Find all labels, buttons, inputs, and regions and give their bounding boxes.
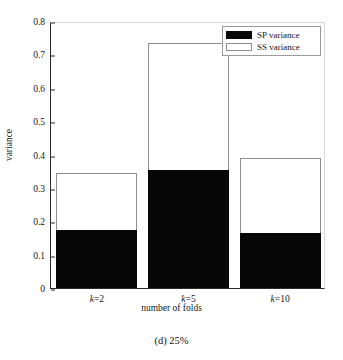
bar-segment-sp-variance xyxy=(240,233,321,288)
y-tick-mark xyxy=(51,23,55,24)
bar-segment-sp-variance xyxy=(148,170,229,288)
y-tick-label: 0.2 xyxy=(33,219,51,229)
figure-panel: variance 00.10.20.30.40.50.60.70.8 k=2k=… xyxy=(0,0,343,360)
bar-group xyxy=(56,173,137,288)
y-tick-label: 0.6 xyxy=(33,85,51,95)
y-tick-label: 0.4 xyxy=(33,152,51,162)
x-axis-label: number of folds xyxy=(0,303,343,313)
y-tick-label: 0.7 xyxy=(33,52,51,62)
y-tick-mark xyxy=(51,189,55,190)
y-tick-mark xyxy=(51,156,55,157)
y-tick-label: 0.5 xyxy=(33,118,51,128)
bar-segment-sp-variance xyxy=(56,230,137,288)
figure-caption: (d) 25% xyxy=(0,335,343,346)
bar-group xyxy=(148,43,229,288)
chart-legend: SP variance SS variance xyxy=(222,26,321,56)
plot-area: 00.10.20.30.40.50.60.70.8 k=2k=5k=10 xyxy=(50,22,325,289)
y-tick-mark xyxy=(51,256,55,257)
y-axis-label: variance xyxy=(4,105,14,185)
legend-swatch-ss-variance xyxy=(226,43,252,51)
legend-swatch-sp-variance xyxy=(226,31,252,39)
y-tick-label: 0.1 xyxy=(33,252,51,262)
y-tick-mark xyxy=(51,123,55,124)
legend-label-sp-variance: SP variance xyxy=(257,31,299,40)
bar-group xyxy=(240,158,321,288)
y-tick-mark xyxy=(51,290,55,291)
y-tick-mark xyxy=(51,223,55,224)
y-tick-label: 0.8 xyxy=(33,18,51,28)
y-tick-label: 0.3 xyxy=(33,185,51,195)
y-tick-label: 0 xyxy=(40,285,51,295)
y-tick-mark xyxy=(51,56,55,57)
legend-label-ss-variance: SS variance xyxy=(257,43,300,52)
y-tick-mark xyxy=(51,89,55,90)
legend-item-sp-variance: SP variance xyxy=(226,29,317,41)
legend-item-ss-variance: SS variance xyxy=(226,41,317,53)
